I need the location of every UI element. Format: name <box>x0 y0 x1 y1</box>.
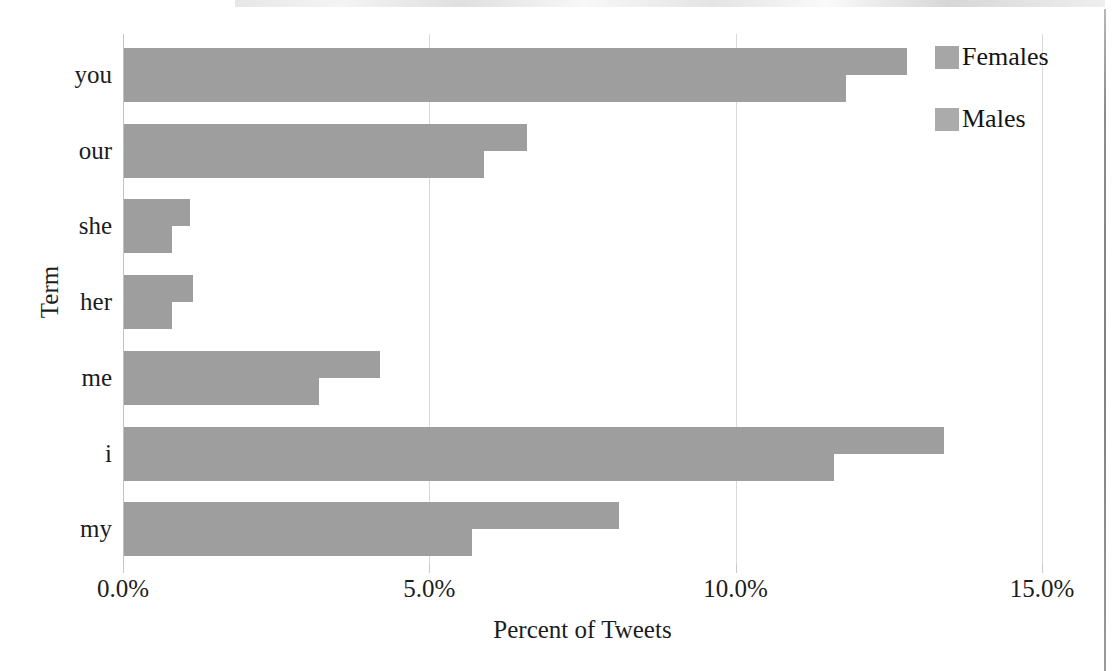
bar-group <box>123 275 1042 329</box>
x-axis-tick <box>736 564 737 573</box>
bar-females-she <box>123 199 190 226</box>
plot-area <box>123 34 1042 564</box>
legend-label: Males <box>962 102 1026 136</box>
bar-males-our <box>123 151 484 178</box>
x-axis-tick <box>1042 564 1043 573</box>
bar-group <box>123 502 1042 556</box>
bar-group <box>123 48 1042 102</box>
legend-item[interactable]: Males <box>935 102 1105 164</box>
x-axis-tick-label: 10.0% <box>666 575 806 603</box>
legend-swatch-females <box>935 46 959 69</box>
y-axis-category-label: you <box>2 61 112 88</box>
legend: FemalesMales <box>935 40 1105 164</box>
bar-females-my <box>123 502 619 529</box>
y-axis-category-label: me <box>2 364 112 391</box>
bar-females-i <box>123 427 944 454</box>
y-axis-category-label: my <box>2 515 112 542</box>
y-axis-category-label: our <box>2 137 112 164</box>
legend-item[interactable]: Females <box>935 40 1105 102</box>
bar-group <box>123 427 1042 481</box>
scan-artifact-right-edge <box>1104 9 1106 671</box>
y-axis-title: Term <box>36 232 64 352</box>
x-axis-tick <box>429 564 430 573</box>
legend-label: Females <box>962 40 1049 74</box>
y-axis-line <box>123 34 124 564</box>
bar-males-her <box>123 302 172 329</box>
bar-chart: youourshehermeimy Term 0.0%5.0%10.0%15.0… <box>0 0 1118 671</box>
bar-females-her <box>123 275 193 302</box>
bar-females-you <box>123 48 907 75</box>
bar-males-me <box>123 378 319 405</box>
bar-males-she <box>123 226 172 253</box>
bar-group <box>123 351 1042 405</box>
x-axis-tick-label: 15.0% <box>972 575 1112 603</box>
y-axis-category-label: i <box>2 440 112 467</box>
bar-females-me <box>123 351 380 378</box>
bar-males-i <box>123 454 834 481</box>
bar-group <box>123 199 1042 253</box>
x-axis-title: Percent of Tweets <box>123 616 1042 644</box>
bar-males-my <box>123 529 472 556</box>
x-axis-tick <box>123 564 124 573</box>
bar-group <box>123 124 1042 178</box>
x-axis-tick-label: 5.0% <box>359 575 499 603</box>
bar-males-you <box>123 75 846 102</box>
bar-females-our <box>123 124 527 151</box>
legend-swatch-males <box>935 108 959 131</box>
x-axis-tick-label: 0.0% <box>53 575 193 603</box>
scan-artifact-top <box>235 0 1105 7</box>
